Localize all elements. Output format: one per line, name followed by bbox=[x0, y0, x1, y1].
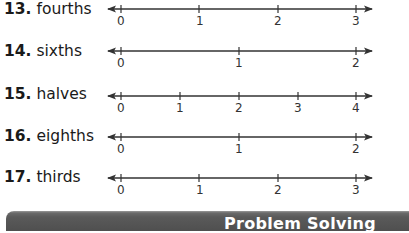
tick-label: 2 bbox=[274, 14, 282, 28]
tick-label: 2 bbox=[235, 101, 243, 115]
exercise-number: 13. bbox=[4, 0, 31, 18]
tick-label: 0 bbox=[117, 101, 125, 115]
exercise-13: 13.fourths 0 1 2 3 bbox=[0, 0, 403, 40]
exercise-number: 14. bbox=[4, 42, 31, 60]
banner-title: Problem Solving bbox=[224, 214, 376, 233]
exercise-number: 16. bbox=[4, 127, 31, 145]
tick-label: 0 bbox=[117, 56, 125, 70]
exercise-unit: halves bbox=[36, 85, 86, 103]
tick-label: 0 bbox=[117, 142, 125, 156]
exercise-number: 15. bbox=[4, 85, 31, 103]
tick-label: 4 bbox=[352, 101, 360, 115]
exercise-16: 16.eighths 0 1 2 bbox=[0, 126, 403, 166]
tick-label: 3 bbox=[352, 14, 360, 28]
exercise-label: 13.fourths bbox=[4, 0, 92, 18]
tick-label: 0 bbox=[117, 183, 125, 197]
tick-label: 3 bbox=[352, 183, 360, 197]
tick-label: 0 bbox=[117, 14, 125, 28]
exercise-label: 14.sixths bbox=[4, 42, 82, 60]
tick-label: 1 bbox=[196, 183, 204, 197]
tick-label: 2 bbox=[274, 183, 282, 197]
exercise-unit: thirds bbox=[36, 168, 80, 186]
exercise-unit: fourths bbox=[36, 0, 91, 18]
exercise-unit: eighths bbox=[36, 127, 93, 145]
tick-label: 2 bbox=[352, 56, 360, 70]
tick-label: 1 bbox=[235, 56, 243, 70]
problem-solving-banner: Problem Solving bbox=[6, 211, 409, 231]
exercise-label: 15.halves bbox=[4, 85, 87, 103]
number-line bbox=[104, 169, 380, 205]
exercise-unit: sixths bbox=[36, 42, 82, 60]
exercise-14: 14.sixths 0 1 2 bbox=[0, 42, 403, 82]
exercise-17: 17.thirds 0 1 2 3 bbox=[0, 167, 403, 207]
tick-label: 1 bbox=[196, 14, 204, 28]
tick-label: 3 bbox=[294, 101, 302, 115]
exercise-15: 15.halves 0 1 2 3 4 bbox=[0, 84, 403, 124]
tick-label: 1 bbox=[176, 101, 184, 115]
number-line bbox=[104, 0, 380, 36]
tick-label: 2 bbox=[352, 142, 360, 156]
exercise-label: 16.eighths bbox=[4, 127, 94, 145]
tick-label: 1 bbox=[235, 142, 243, 156]
exercise-label: 17.thirds bbox=[4, 168, 81, 186]
exercise-number: 17. bbox=[4, 168, 31, 186]
